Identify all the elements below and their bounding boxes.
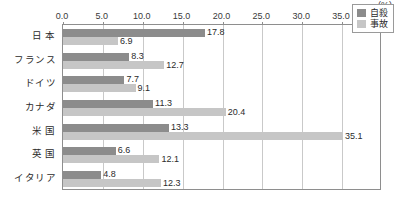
axis-tickmark (183, 22, 184, 25)
axis-tickmark (103, 22, 104, 25)
axis-tickmark (223, 22, 224, 25)
axis-tickmark (143, 22, 144, 25)
x-tick-label: 30.0 (292, 11, 310, 21)
bar-value-label: 12.1 (159, 155, 179, 164)
bar-accident (63, 37, 118, 45)
category-label: カナダ (0, 101, 56, 112)
bar-accident (63, 84, 136, 92)
gridline (223, 25, 224, 189)
x-tick-label: 10.0 (133, 11, 151, 21)
bar-chart: (%) 0.05.010.015.020.025.030.035.040.0 1… (0, 0, 402, 199)
chart-legend: 自殺事故 (352, 4, 394, 33)
legend-label: 自殺 (370, 8, 388, 18)
bar-value-label: 35.1 (343, 132, 363, 141)
category-label: イタリア (0, 172, 56, 183)
axis-tickmark (262, 22, 263, 25)
bar-suicide (63, 100, 153, 108)
x-tick-label: 5.0 (96, 11, 109, 21)
gridline (302, 25, 303, 189)
bar-accident (63, 61, 164, 69)
legend-label: 事故 (370, 19, 388, 29)
gridline (342, 25, 343, 189)
category-label: 日 本 (0, 30, 56, 41)
axis-tickmark (342, 22, 343, 25)
x-tick-label: 0.0 (56, 11, 69, 21)
axis-tickmark (63, 22, 64, 25)
bar-suicide (63, 147, 116, 155)
legend-item: 事故 (357, 18, 388, 29)
x-tick-label: 25.0 (253, 11, 271, 21)
bar-value-label: 9.1 (136, 84, 151, 93)
plot-area: 17.86.98.312.77.79.111.320.413.335.16.61… (62, 24, 381, 190)
gridline (262, 25, 263, 189)
category-label: ドイツ (0, 77, 56, 88)
bar-accident (63, 155, 159, 163)
x-tick-label: 35.0 (332, 11, 350, 21)
bar-value-label: 20.4 (226, 108, 246, 117)
bar-value-label: 7.7 (124, 75, 139, 84)
legend-swatch-suicide (357, 9, 366, 17)
bar-accident (63, 108, 226, 116)
bar-value-label: 4.8 (101, 170, 116, 179)
axis-tickmark (302, 22, 303, 25)
legend-item: 自殺 (357, 7, 388, 18)
bar-accident (63, 132, 343, 140)
bar-value-label: 17.8 (205, 28, 225, 37)
bar-suicide (63, 171, 101, 179)
bar-value-label: 6.9 (118, 37, 133, 46)
bar-value-label: 8.3 (129, 52, 144, 61)
bar-value-label: 12.7 (164, 61, 184, 70)
bar-suicide (63, 76, 124, 84)
bar-value-label: 11.3 (153, 99, 172, 108)
x-tick-label: 15.0 (173, 11, 191, 21)
bar-value-label: 13.3 (169, 123, 189, 132)
bar-suicide (63, 29, 205, 37)
bar-suicide (63, 53, 129, 61)
category-label: 米 国 (0, 125, 56, 136)
bar-value-label: 12.3 (161, 179, 181, 188)
legend-swatch-accident (357, 20, 366, 28)
gridline (183, 25, 184, 189)
bar-value-label: 6.6 (116, 146, 131, 155)
bar-suicide (63, 124, 169, 132)
bar-accident (63, 179, 161, 187)
x-tick-label: 20.0 (213, 11, 231, 21)
category-label: フランス (0, 54, 56, 65)
category-label: 英 国 (0, 148, 56, 159)
